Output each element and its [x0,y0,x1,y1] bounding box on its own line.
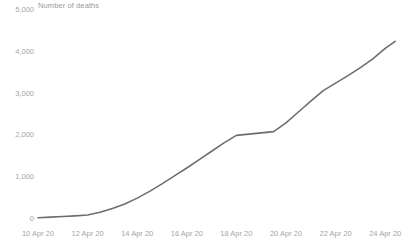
x-axis-tick-label: 24 Apr 20 [369,229,401,238]
x-axis-tick-label: 20 Apr 20 [270,229,302,238]
plot-area [0,0,413,250]
x-axis-tick-label: 22 Apr 20 [320,229,352,238]
series-line-number-of-deaths [38,41,395,217]
x-axis-tick-label: 12 Apr 20 [72,229,104,238]
x-axis-tick-label: 10 Apr 20 [22,229,54,238]
x-axis-tick-label: 14 Apr 20 [121,229,153,238]
line-chart: Number of deaths 5,0004,0003,0002,0001,0… [0,0,413,250]
x-axis-tick-label: 16 Apr 20 [171,229,203,238]
x-axis-tick-label: 18 Apr 20 [220,229,252,238]
